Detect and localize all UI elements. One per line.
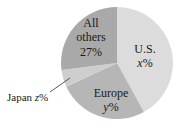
europe-value: y% <box>102 100 118 114</box>
others-label-line1: All <box>83 16 99 30</box>
japan-label: Japan z% <box>7 91 48 103</box>
pie-chart: All others 27% U.S. x% Europe y% Japan z… <box>0 0 177 128</box>
us-value: x% <box>136 56 152 70</box>
us-label: U.S. <box>134 42 155 56</box>
others-value: 27% <box>80 45 102 59</box>
europe-label: Europe <box>94 86 129 100</box>
others-label-line2: others <box>76 30 106 44</box>
